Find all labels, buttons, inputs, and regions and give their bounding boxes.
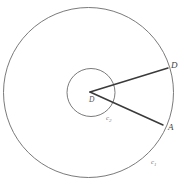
label-outer-point-d: D: [171, 61, 178, 70]
outer-circle-c1: [4, 8, 174, 178]
geometry-figure: D A D c2 c1: [0, 0, 184, 187]
inner-circle-subscript: 2: [109, 118, 112, 123]
outer-circle-subscript: 1: [154, 162, 157, 167]
radius-segment-to-d: [90, 68, 168, 92]
label-center-point-d: D: [89, 96, 94, 104]
radius-segment-to-a: [90, 92, 163, 125]
label-outer-circle-c1: c1: [151, 159, 157, 167]
label-inner-circle-c2: c2: [106, 115, 112, 123]
label-outer-point-a: A: [168, 123, 174, 132]
